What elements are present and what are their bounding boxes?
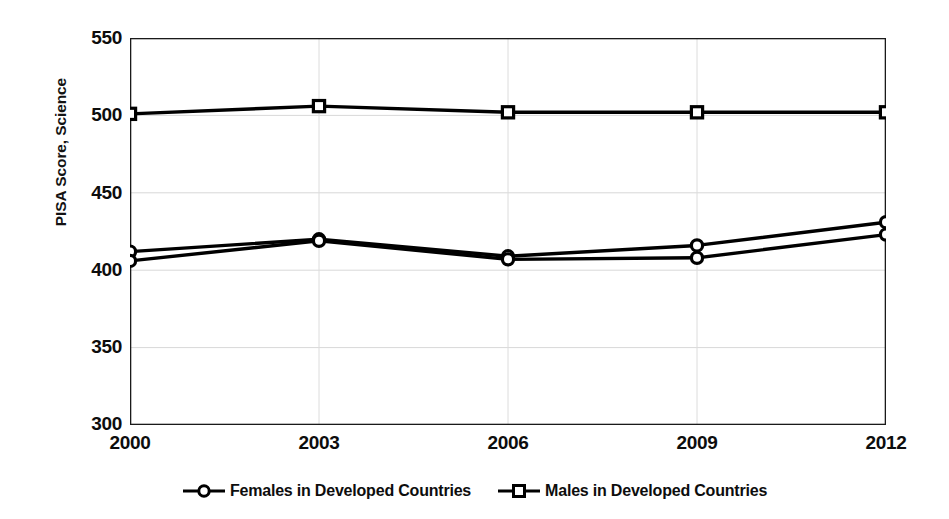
y-tick-350: 350 (70, 336, 122, 358)
pisa-science-line-chart: PISA Score, Science 550 500 450 400 350 … (0, 0, 949, 519)
legend-item-males: Males in Developed Countries (497, 483, 767, 499)
x-tick-2003: 2003 (274, 432, 364, 454)
gridlines (130, 38, 886, 425)
x-tick-2006: 2006 (463, 432, 553, 454)
y-tick-550: 550 (70, 27, 122, 49)
x-tick-2009: 2009 (652, 432, 742, 454)
data-point-circle (130, 255, 136, 266)
legend-item-females: Females in Developed Countries (182, 483, 471, 499)
legend-label-females: Females in Developed Countries (230, 483, 471, 499)
square-marker-icon (497, 483, 541, 499)
x-axis-tick-labels: 2000 2003 2006 2009 2012 (0, 432, 949, 460)
x-tick-2012: 2012 (841, 432, 931, 454)
data-point-circle (880, 217, 886, 228)
y-tick-450: 450 (70, 182, 122, 204)
data-point-circle (691, 240, 702, 251)
data-point-circle (502, 254, 513, 265)
data-point-circle (313, 235, 324, 246)
data-point-circle (880, 229, 886, 240)
y-tick-500: 500 (70, 104, 122, 126)
legend-label-males: Males in Developed Countries (545, 483, 767, 499)
data-point-square (502, 107, 513, 118)
x-tick-2000: 2000 (85, 432, 175, 454)
plot-area (130, 38, 886, 425)
data-point-square (313, 101, 324, 112)
data-point-square (130, 108, 136, 119)
circle-marker-icon (182, 483, 226, 499)
chart-legend: Females in Developed Countries Males in … (0, 476, 949, 506)
data-point-square (691, 107, 702, 118)
data-point-circle (691, 252, 702, 263)
plot-svg (130, 38, 886, 425)
y-tick-400: 400 (70, 259, 122, 281)
data-point-square (880, 107, 886, 118)
